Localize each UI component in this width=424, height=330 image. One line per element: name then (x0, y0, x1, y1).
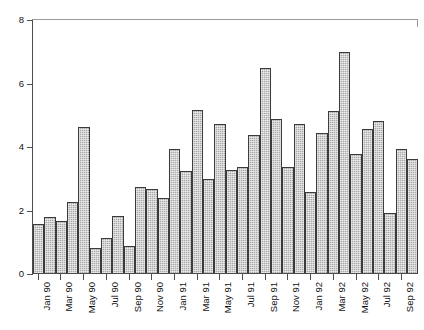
x-axis-tick-label: Jul 90 (110, 282, 120, 307)
x-axis-tick (310, 274, 311, 280)
bar (169, 149, 180, 273)
bar (192, 110, 203, 274)
bar (180, 171, 191, 273)
x-axis-tick-label: Sep 91 (269, 282, 279, 312)
x-axis-tick-label: Jul 91 (246, 282, 256, 307)
bar (407, 159, 418, 273)
bar (67, 202, 78, 273)
bar (78, 127, 89, 273)
x-axis-tick-label: May 90 (87, 282, 97, 313)
x-axis-tick (129, 274, 130, 280)
x-axis-tick-label: Jan 92 (314, 282, 324, 311)
x-axis-tick-label: Sep 92 (405, 282, 415, 312)
bar (214, 124, 225, 273)
x-axis-tick (333, 274, 334, 280)
bar (350, 154, 361, 273)
bar-series (33, 20, 418, 273)
y-axis-tick-label: 4 (19, 142, 24, 152)
x-axis-tick-label: Jan 90 (42, 282, 52, 311)
bar (373, 121, 384, 273)
plot-area: 02468 (32, 20, 418, 274)
bar (90, 248, 101, 273)
bar (237, 167, 248, 273)
x-axis-tick-label: May 92 (360, 282, 370, 313)
x-axis-ticks (32, 274, 418, 281)
x-axis-tick (265, 274, 266, 280)
x-axis-tick-label: Mar 91 (201, 282, 211, 312)
bar (328, 111, 339, 273)
x-axis-tick (174, 274, 175, 280)
x-axis-tick (287, 274, 288, 280)
bar (112, 216, 123, 273)
bar (56, 221, 67, 273)
bar (101, 238, 112, 273)
x-axis-labels: Jan 90Mar 90May 90Jul 90Sep 90Nov 90Jan … (32, 282, 418, 330)
x-axis-tick (356, 274, 357, 280)
x-axis-tick-label: Mar 92 (337, 282, 347, 312)
bar (44, 217, 55, 273)
x-axis-tick (401, 274, 402, 280)
x-axis-tick-label: Mar 90 (64, 282, 74, 312)
x-axis-tick-label: Nov 91 (291, 282, 301, 312)
x-axis-tick (197, 274, 198, 280)
y-axis-tick-label: 8 (19, 15, 24, 25)
x-axis-tick-label: Nov 90 (155, 282, 165, 312)
bar (305, 192, 316, 273)
x-axis-tick-label: Sep 90 (133, 282, 143, 312)
y-axis-tick-label: 0 (19, 269, 24, 279)
x-axis-tick (60, 274, 61, 280)
bar (203, 179, 214, 273)
x-axis-tick (151, 274, 152, 280)
bar (248, 135, 259, 273)
bar (282, 167, 293, 273)
bar (294, 124, 305, 273)
x-axis-tick-label: Jan 91 (178, 282, 188, 311)
x-axis-tick (219, 274, 220, 280)
bar (339, 52, 350, 273)
bar (33, 224, 44, 273)
x-axis-tick (38, 274, 39, 280)
bar (146, 189, 157, 273)
bar (260, 68, 271, 273)
bar (124, 246, 135, 273)
bar (226, 170, 237, 273)
bar (396, 149, 407, 273)
x-axis-tick-label: May 91 (223, 282, 233, 313)
bar (384, 213, 395, 273)
x-axis-tick (242, 274, 243, 280)
bar (316, 133, 327, 273)
x-axis-tick (378, 274, 379, 280)
y-axis-tick-label: 2 (19, 206, 24, 216)
bar (135, 187, 146, 273)
bar (362, 129, 373, 273)
x-axis-tick-label: Jul 92 (382, 282, 392, 307)
bar (271, 119, 282, 273)
x-axis-tick (83, 274, 84, 280)
bar (158, 198, 169, 273)
x-axis-tick (106, 274, 107, 280)
y-axis-tick-label: 6 (19, 79, 24, 89)
bar-chart: 02468 Jan 90Mar 90May 90Jul 90Sep 90Nov … (0, 0, 424, 330)
